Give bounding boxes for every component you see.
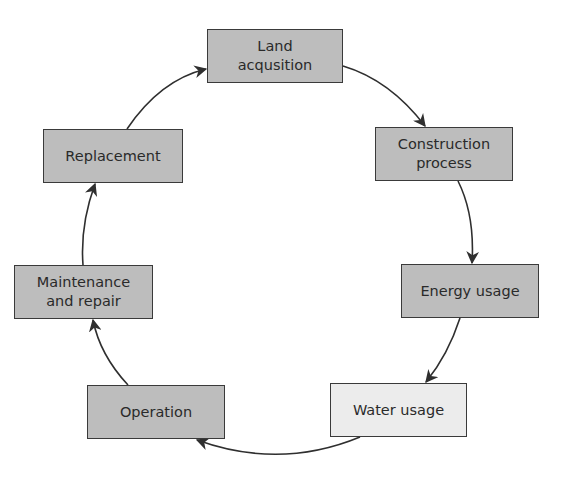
node-label: Land acqusition	[238, 37, 313, 75]
node-label: Operation	[120, 403, 192, 422]
node-label: Water usage	[353, 401, 444, 420]
arrow-land-to-construction	[343, 66, 425, 126]
node-label: Maintenance and repair	[37, 273, 130, 311]
arrow-maintenance-to-replacement	[83, 184, 96, 265]
node-label: Construction process	[398, 135, 490, 173]
node-replacement: Replacement	[43, 129, 183, 183]
arrow-energy-to-water	[426, 318, 460, 382]
node-label: Replacement	[65, 147, 160, 166]
node-maintenance: Maintenance and repair	[14, 265, 153, 319]
node-operation: Operation	[87, 385, 225, 439]
node-construction: Construction process	[375, 127, 513, 181]
arrow-construction-to-energy	[458, 181, 472, 263]
arrow-water-to-operation	[197, 437, 360, 454]
arrow-replacement-to-land	[127, 69, 206, 129]
node-water: Water usage	[330, 383, 467, 437]
node-land: Land acqusition	[207, 29, 343, 83]
node-energy: Energy usage	[401, 264, 539, 318]
arrow-operation-to-maintenance	[93, 320, 128, 385]
node-label: Energy usage	[420, 282, 519, 301]
